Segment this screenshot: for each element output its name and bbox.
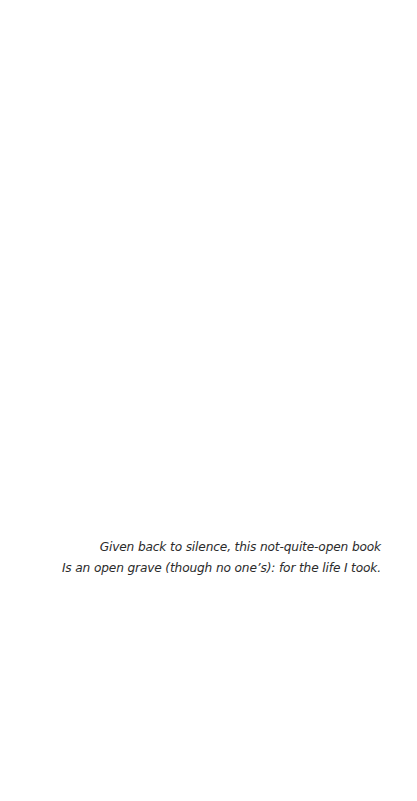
book-page: Given back to silence, this not-quite-op… <box>0 0 417 801</box>
epigraph: Given back to silence, this not-quite-op… <box>62 537 381 579</box>
epigraph-line-2: Is an open grave (though no one’s): for … <box>62 558 381 579</box>
epigraph-line-1: Given back to silence, this not-quite-op… <box>62 537 381 558</box>
